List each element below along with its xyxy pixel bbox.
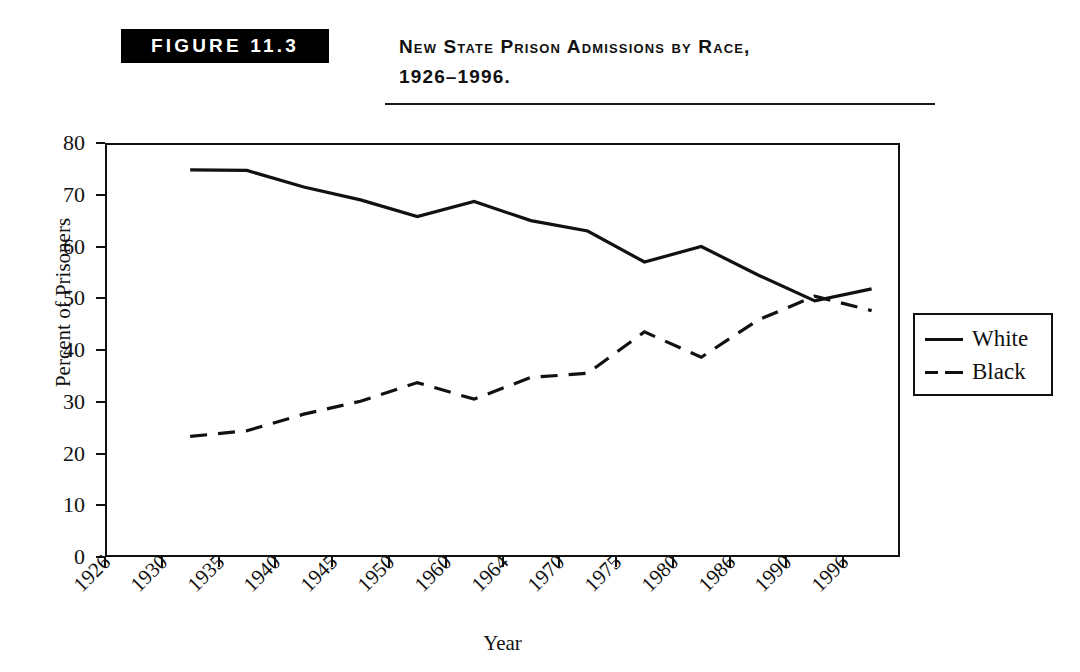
y-tick-label: 40 [39, 339, 85, 361]
y-tick-mark [96, 246, 105, 248]
legend-label-white: White [972, 327, 1028, 350]
x-tick-label: 1980 [638, 551, 683, 596]
y-tick-label: 60 [39, 236, 85, 258]
y-tick-label: 10 [39, 494, 85, 516]
legend-item-black: Black [925, 355, 1051, 388]
y-tick-label: 80 [39, 132, 85, 154]
y-tick-mark [96, 504, 105, 506]
y-tick-label: 20 [39, 443, 85, 465]
plot-frame [105, 143, 900, 557]
x-tick-label: 1996 [808, 551, 853, 596]
x-tick-label: 1950 [354, 551, 399, 596]
x-tick-label: 1940 [240, 551, 285, 596]
legend-swatch-solid-line-icon [925, 332, 963, 346]
y-tick-mark [96, 297, 105, 299]
x-tick-label: 1960 [411, 551, 456, 596]
y-tick-mark [96, 142, 105, 144]
y-tick-label: 0 [39, 546, 85, 568]
y-tick-label: 70 [39, 184, 85, 206]
chart-legend: White Black [913, 313, 1053, 396]
legend-swatch-dashed-line-icon [925, 365, 963, 379]
x-tick-label: 1945 [297, 551, 342, 596]
x-tick-label: 1990 [751, 551, 796, 596]
x-tick-label: 1930 [127, 551, 172, 596]
y-tick-mark [96, 401, 105, 403]
x-tick-label: 1935 [184, 551, 229, 596]
x-tick-label: 1970 [524, 551, 569, 596]
x-tick-label: 1986 [695, 551, 740, 596]
x-tick-label: 1964 [468, 551, 513, 596]
y-tick-label: 30 [39, 391, 85, 413]
y-tick-mark [96, 194, 105, 196]
x-tick-label: 1975 [581, 551, 626, 596]
line-chart: Percent of Prisoners Year 01020304050607… [0, 0, 1080, 672]
legend-item-white: White [925, 322, 1051, 355]
y-tick-mark [96, 453, 105, 455]
legend-label-black: Black [972, 360, 1026, 383]
y-tick-label: 50 [39, 287, 85, 309]
y-tick-mark [96, 349, 105, 351]
x-axis-title: Year [0, 631, 1005, 656]
